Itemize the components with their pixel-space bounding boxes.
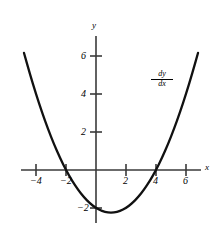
derivative-label: dy dx	[151, 70, 173, 89]
x-tick-label-2: 2	[123, 176, 128, 186]
x-tick-label--4: −4	[30, 176, 42, 186]
derivative-label-denominator: dx	[151, 80, 173, 88]
derivative-label-numerator: dy	[151, 70, 173, 78]
y-tick-label-6: 6	[81, 51, 86, 61]
y-axis-label: y	[92, 21, 96, 30]
x-tick-label--2: −2	[60, 176, 72, 186]
x-tick-label-4: 4	[153, 176, 158, 186]
plot-canvas	[0, 0, 224, 233]
y-tick-label-2: 2	[81, 127, 86, 137]
y-tick-label-4: 4	[81, 89, 86, 99]
x-axis-label: x	[205, 163, 209, 172]
graph-figure: −4 −2 2 4 6 6 4 2 −2 y x dy dx	[0, 0, 224, 233]
x-tick-label-6: 6	[183, 176, 188, 186]
y-tick-label--2: −2	[77, 203, 89, 213]
